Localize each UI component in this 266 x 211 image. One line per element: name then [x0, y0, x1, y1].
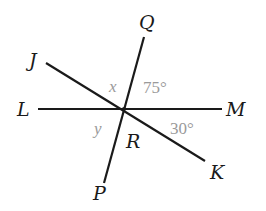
point-label-R: R: [125, 130, 140, 152]
geometry-diagram: Q J L M R P K x 75° y 30°: [0, 0, 266, 211]
point-label-L: L: [16, 98, 30, 120]
point-label-K: K: [209, 161, 226, 183]
point-label-M: M: [225, 98, 246, 120]
intersection-point-R: [122, 107, 126, 111]
point-label-Q: Q: [139, 11, 155, 33]
point-label-P: P: [92, 182, 107, 204]
angle-label-y: y: [92, 119, 102, 138]
angle-label-30: 30°: [170, 119, 194, 138]
angle-label-75: 75°: [143, 78, 167, 97]
point-label-J: J: [25, 49, 38, 71]
angle-label-x: x: [108, 77, 117, 96]
